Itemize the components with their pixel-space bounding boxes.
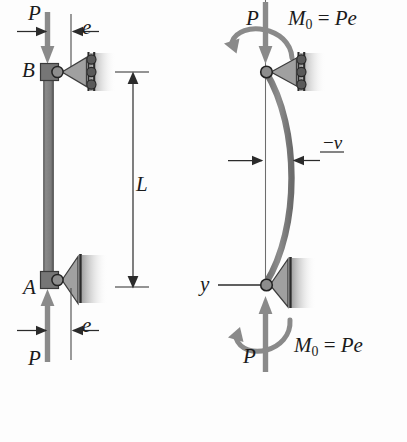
bottom-axial-load-arrow-P bbox=[41, 289, 55, 362]
label-length-L: L bbox=[136, 174, 148, 195]
top-end-moment-arc bbox=[224, 29, 292, 58]
support-A-pin-deformed bbox=[261, 257, 316, 308]
deflected-column-curve bbox=[266, 72, 292, 283]
label-bottom-end-moment: M0 = Pe bbox=[294, 335, 363, 359]
top-moment-value: Pe bbox=[335, 6, 357, 30]
deflection-symbol: v bbox=[334, 132, 342, 153]
deflection-dimension bbox=[228, 152, 344, 161]
label-deflection-minus-v: −v bbox=[323, 133, 342, 152]
bottom-moment-symbol: M bbox=[294, 333, 312, 357]
label-bottom-eccentricity-e: e bbox=[82, 315, 91, 336]
label-top-load-P-left: P bbox=[28, 3, 41, 24]
label-joint-B: B bbox=[22, 60, 35, 81]
label-bottom-load-P-left: P bbox=[28, 348, 41, 369]
bottom-moment-equals: = bbox=[318, 333, 340, 357]
bottom-axial-load-arrow-P-deformed bbox=[259, 296, 273, 372]
label-joint-A: A bbox=[23, 277, 36, 298]
top-axial-load-arrow-P bbox=[41, 12, 55, 64]
top-moment-equals: = bbox=[312, 6, 334, 30]
label-top-end-moment: M0 = Pe bbox=[288, 8, 357, 32]
label-top-eccentricity-e: e bbox=[82, 17, 91, 38]
bottom-end-moment-arc bbox=[228, 320, 290, 351]
bottom-moment-value: Pe bbox=[341, 333, 363, 357]
label-y-axis: y bbox=[200, 274, 209, 295]
deflection-sign: − bbox=[323, 132, 334, 153]
top-moment-symbol: M bbox=[288, 6, 306, 30]
label-top-load-P-right: P bbox=[246, 8, 259, 29]
figure-canvas: P e B L A e P P M0 = Pe −v y P M0 = Pe bbox=[0, 0, 407, 442]
label-bottom-load-P-right: P bbox=[243, 346, 256, 367]
column-member-undeformed bbox=[44, 72, 54, 280]
diagram-vector-layer bbox=[0, 0, 407, 442]
